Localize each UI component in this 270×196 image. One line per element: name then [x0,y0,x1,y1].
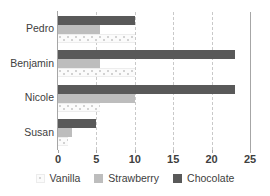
bar-vanilla-pedro [58,34,135,43]
axis-tick-label-0: 0 [55,153,61,165]
bar-strawberry-benjamin [58,59,100,68]
category-label-benjamin: Benjamin [0,57,54,69]
legend-item-chocolate[interactable]: Chocolate [173,172,234,184]
chart-legend: VanillaStrawberryChocolate [0,172,270,184]
axis-tick-label-20: 20 [205,153,217,165]
bar-chocolate-susan [58,119,96,128]
legend-item-strawberry[interactable]: Strawberry [94,172,159,184]
bar-chocolate-benjamin [58,50,235,59]
legend-swatch-strawberry-icon [94,174,103,183]
gridline-25 [250,12,252,150]
bar-group [58,116,250,151]
bar-group [58,81,250,116]
axis-tick-label-15: 15 [167,153,179,165]
axis-tick-label-25: 25 [244,153,256,165]
bar-chart: PedroBenjaminNicoleSusan 0510152025 Vani… [0,0,270,196]
axis-tick-label-10: 10 [129,153,141,165]
category-axis: PedroBenjaminNicoleSusan [0,12,54,150]
category-label-nicole: Nicole [0,91,54,103]
category-label-pedro: Pedro [0,22,54,34]
value-axis: 0510152025 [58,150,250,166]
bar-strawberry-nicole [58,94,135,103]
bar-group [58,47,250,82]
plot-area [58,12,250,150]
bar-strawberry-susan [58,128,72,137]
bar-vanilla-nicole [58,103,100,112]
bar-vanilla-susan [58,137,68,146]
category-label-susan: Susan [0,126,54,138]
bar-chocolate-nicole [58,85,235,94]
legend-swatch-chocolate-icon [173,174,182,183]
legend-label-strawberry: Strawberry [108,172,159,184]
bar-group [58,12,250,47]
legend-label-chocolate: Chocolate [187,172,234,184]
legend-item-vanilla[interactable]: Vanilla [36,172,81,184]
legend-label-vanilla: Vanilla [50,172,81,184]
axis-tick-label-5: 5 [93,153,99,165]
legend-swatch-vanilla-icon [36,174,45,183]
bar-chocolate-pedro [58,16,135,25]
bar-strawberry-pedro [58,25,100,34]
bar-vanilla-benjamin [58,68,135,77]
